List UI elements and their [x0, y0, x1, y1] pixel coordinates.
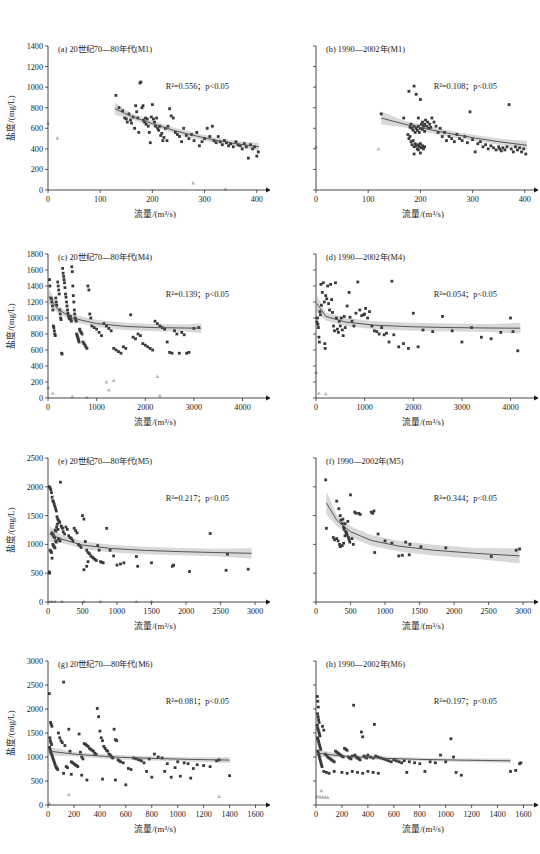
data-point-marker [495, 149, 498, 152]
data-point-marker [155, 117, 158, 120]
data-point-marker [359, 513, 362, 516]
data-point-marker [334, 281, 337, 284]
data-point-marker [217, 135, 220, 138]
data-point-marker [56, 768, 59, 771]
data-point-marker [59, 313, 62, 316]
x-tick-label: 300 [466, 195, 478, 204]
data-point-marker [337, 331, 340, 334]
data-point-marker [63, 533, 66, 536]
triangle-marker [67, 792, 71, 796]
data-point-marker [318, 341, 321, 344]
triangle-marker [155, 374, 159, 378]
data-point-marker [115, 349, 118, 352]
y-axis: 020040060080010001200140016001800 [27, 250, 48, 403]
low-value-triangles [48, 599, 153, 603]
data-point-marker [490, 555, 493, 558]
data-point-marker [417, 117, 420, 120]
data-point-marker [323, 342, 326, 345]
y-axis-title: 盐度/(mg/L) [5, 710, 16, 755]
data-point-marker [221, 143, 224, 146]
data-point-marker [79, 751, 82, 754]
data-point-marker [95, 328, 98, 331]
x-tick-label: 800 [414, 810, 426, 819]
x-tick-label: 400 [94, 810, 106, 819]
data-point-marker [124, 783, 127, 786]
data-point-marker [339, 514, 342, 517]
chart-panel-a: 02004006008001000120014000100200300400(a… [0, 30, 270, 235]
data-point-marker [124, 347, 127, 350]
data-point-marker [54, 547, 57, 550]
panel-title: (e) 20世纪70—80年代(M5) [58, 456, 152, 466]
data-point-marker [408, 90, 411, 93]
data-point-marker [317, 718, 320, 721]
data-point-marker [413, 761, 416, 764]
data-point-marker [395, 759, 398, 762]
data-point-marker [120, 352, 123, 355]
triangle-marker [317, 391, 321, 395]
x-axis: 0100200300400 [314, 190, 531, 204]
data-point-marker [385, 759, 388, 762]
data-point-marker [51, 496, 54, 499]
data-point-marker [514, 769, 517, 772]
data-point-marker [116, 564, 119, 567]
data-point-marker [476, 142, 479, 145]
data-point-marker [57, 528, 60, 531]
data-point-marker [119, 760, 122, 763]
chart-panel-b: 0100200300400(b) 1990—2002年(M1)R²=0.108；… [268, 30, 538, 235]
data-point-marker [134, 104, 137, 107]
data-point-marker [86, 779, 89, 782]
data-point-marker [380, 113, 383, 116]
data-point-marker [127, 767, 130, 770]
data-point-marker [363, 313, 366, 316]
y-tick-label: 600 [31, 346, 43, 355]
data-point-marker [178, 135, 181, 138]
data-point-marker [429, 760, 432, 763]
triangle-marker [134, 599, 138, 603]
confidence-band [49, 526, 251, 558]
data-point-marker [325, 297, 328, 300]
data-point-marker [417, 345, 420, 348]
data-point-marker [367, 770, 370, 773]
data-point-marker [435, 125, 438, 128]
y-tick-label: 1500 [27, 512, 43, 521]
data-points [48, 265, 200, 355]
data-point-marker [324, 294, 327, 297]
data-point-marker [163, 770, 166, 773]
data-point-marker [323, 301, 326, 304]
x-tick-label: 1200 [463, 810, 479, 819]
stats-annotation: R²=0.344；p<0.05 [434, 494, 497, 503]
data-point-marker [192, 767, 195, 770]
data-point-marker [188, 570, 191, 573]
triangle-marker [70, 394, 74, 398]
data-point-marker [85, 565, 88, 568]
x-axis: 01000200030004000 [46, 398, 251, 412]
data-point-marker [133, 127, 136, 130]
data-point-marker [522, 148, 525, 151]
data-point-marker [63, 281, 66, 284]
data-point-marker [63, 278, 66, 281]
data-point-marker [333, 329, 336, 332]
data-point-marker [341, 329, 344, 332]
data-point-marker [335, 500, 338, 503]
data-point-marker [415, 93, 418, 96]
chart-panel-d: 01000200030004000(d) 1990—2002年(M4)R²=0.… [268, 238, 538, 443]
data-point-marker [101, 778, 104, 781]
y-tick-label: 1000 [27, 314, 43, 323]
data-point-marker [49, 736, 52, 739]
data-point-marker [188, 137, 191, 140]
x-tick-label: 100 [362, 195, 374, 204]
y-tick-label: 2000 [27, 705, 43, 714]
x-axis-arrow [534, 803, 538, 808]
data-point-marker [408, 553, 411, 556]
data-point-marker [57, 289, 60, 292]
data-point-marker [105, 527, 108, 530]
data-point-marker [455, 771, 458, 774]
panel-title: (a) 20世纪70—80年代(M1) [58, 44, 152, 54]
data-point-marker [484, 143, 487, 146]
y-tick-label: 800 [31, 104, 43, 113]
data-point-marker [499, 331, 502, 334]
data-point-marker [500, 150, 503, 153]
low-value-triangles [314, 145, 381, 151]
data-point-marker [228, 774, 231, 777]
data-point-marker [72, 301, 75, 304]
